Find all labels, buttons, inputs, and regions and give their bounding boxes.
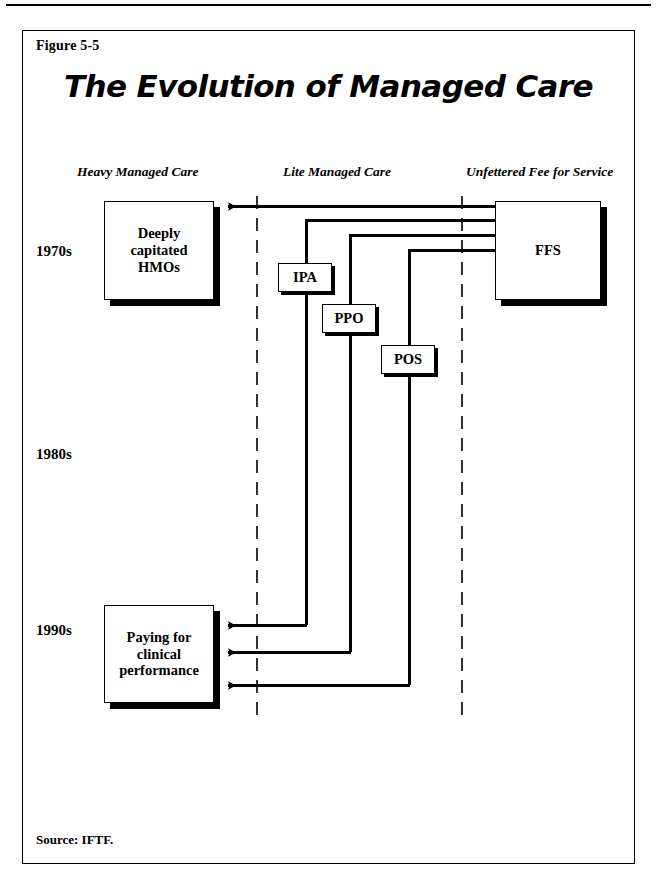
column-header-heavy: Heavy Managed Care — [77, 164, 198, 180]
column-header-unfettered: Unfettered Fee for Service — [466, 164, 613, 180]
node-label: POS — [394, 351, 422, 368]
node-ppo[interactable]: PPO — [322, 304, 376, 333]
decade-label-1990s: 1990s — [36, 622, 72, 639]
node-label: Paying for clinical performance — [119, 629, 199, 679]
node-deeply-capitated-hmos[interactable]: Deeply capitated HMOs — [104, 201, 214, 300]
node-label: IPA — [293, 269, 317, 286]
figure-title: The Evolution of Managed Care — [22, 68, 635, 104]
node-ipa[interactable]: IPA — [278, 263, 332, 292]
node-label: FFS — [535, 242, 561, 259]
node-label: Deeply capitated HMOs — [130, 225, 187, 275]
node-label: PPO — [335, 310, 364, 327]
decade-label-1970s: 1970s — [36, 243, 72, 260]
figure-frame — [22, 30, 635, 864]
node-ffs[interactable]: FFS — [495, 201, 601, 300]
column-header-lite: Lite Managed Care — [283, 164, 391, 180]
decade-label-1980s: 1980s — [36, 446, 72, 463]
figure-label: Figure 5-5 — [36, 38, 100, 54]
page-top-rule — [6, 4, 651, 6]
source-note: Source: IFTF. — [36, 832, 113, 848]
node-pos[interactable]: POS — [381, 345, 435, 374]
node-paying-for-clinical-performance[interactable]: Paying for clinical performance — [104, 605, 214, 703]
